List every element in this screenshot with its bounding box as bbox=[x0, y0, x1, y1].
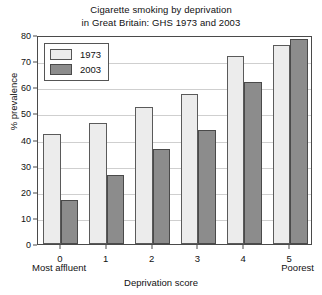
bar-1973-4 bbox=[227, 56, 245, 244]
x-axis-tick-mark bbox=[243, 245, 244, 249]
legend-label-1973: 1973 bbox=[80, 49, 101, 60]
legend-item-2003: 2003 bbox=[50, 63, 101, 76]
bar-2003-5 bbox=[290, 39, 308, 244]
y-axis-tick-label: 70 bbox=[21, 57, 31, 67]
x-axis-tick-mark bbox=[105, 245, 106, 249]
y-axis-tick-label: 0 bbox=[26, 240, 31, 250]
x-axis-label: Deprivation score bbox=[0, 277, 322, 288]
bar-2003-3 bbox=[198, 130, 216, 244]
y-axis-tick-label: 30 bbox=[21, 162, 31, 172]
x-axis-tick-mark bbox=[59, 245, 60, 249]
y-axis-label: % prevalence bbox=[8, 57, 19, 147]
x-axis-tick-label: 1 bbox=[103, 253, 108, 264]
x-axis-tick-mark bbox=[151, 245, 152, 249]
bar-1973-3 bbox=[181, 94, 199, 244]
bar-1973-2 bbox=[135, 107, 153, 244]
legend-item-1973: 1973 bbox=[50, 48, 101, 61]
x-axis-end-label-left: Most affluent bbox=[32, 262, 86, 273]
y-axis-tick-label: 60 bbox=[21, 83, 31, 93]
y-axis-tick-label: 10 bbox=[21, 214, 31, 224]
legend-swatch-2003 bbox=[50, 64, 72, 75]
x-axis-tick-label: 3 bbox=[195, 253, 200, 264]
legend-label-2003: 2003 bbox=[80, 64, 101, 75]
y-axis: 01020304050607080 bbox=[0, 36, 37, 245]
bar-2003-4 bbox=[244, 82, 262, 244]
x-axis-end-label-right: Poorest bbox=[281, 262, 314, 273]
y-axis-tick-label: 80 bbox=[21, 31, 31, 41]
bar-1973-5 bbox=[273, 45, 291, 244]
x-axis-tick-label: 4 bbox=[241, 253, 246, 264]
chart-title: Cigarette smoking by deprivation in Grea… bbox=[0, 3, 322, 29]
chart-title-line-2: in Great Britain: GHS 1973 and 2003 bbox=[0, 16, 322, 29]
chart-legend: 1973 2003 bbox=[44, 43, 109, 81]
bar-1973-0 bbox=[43, 134, 61, 244]
bar-2003-0 bbox=[61, 200, 79, 244]
y-axis-tick-label: 50 bbox=[21, 109, 31, 119]
x-axis-tick-label: 2 bbox=[149, 253, 154, 264]
chart-container: Cigarette smoking by deprivation in Grea… bbox=[0, 0, 322, 295]
legend-swatch-1973 bbox=[50, 49, 72, 60]
x-axis-tick-mark bbox=[197, 245, 198, 249]
y-axis-tick-label: 20 bbox=[21, 188, 31, 198]
bar-2003-2 bbox=[153, 149, 171, 244]
chart-title-line-1: Cigarette smoking by deprivation bbox=[0, 3, 322, 16]
bar-1973-1 bbox=[89, 123, 107, 244]
bar-2003-1 bbox=[107, 175, 125, 244]
y-axis-tick-label: 40 bbox=[21, 136, 31, 146]
x-axis-tick-mark bbox=[289, 245, 290, 249]
